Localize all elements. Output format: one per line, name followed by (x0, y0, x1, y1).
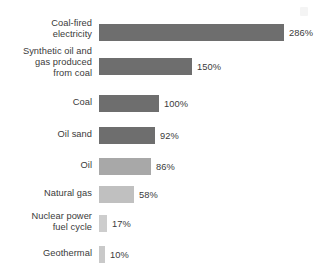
bar-category-label: Coal (0, 97, 92, 108)
bar-group: 150% (99, 58, 221, 75)
bar-category-label: Natural gas (0, 188, 92, 199)
bar-group: 58% (99, 186, 158, 203)
bar-group: 100% (99, 95, 188, 112)
bar-value-label: 10% (110, 250, 129, 260)
bar (99, 158, 151, 175)
bar-value-label: 150% (197, 62, 221, 72)
bar-value-label: 286% (289, 28, 313, 38)
bar-category-label: Oil sand (0, 129, 92, 140)
bar-value-label: 86% (156, 162, 175, 172)
bar-group: 86% (99, 158, 175, 175)
bar (99, 215, 107, 232)
bar-category-label: Oil (0, 160, 92, 171)
bar-category-label: Synthetic oil and gas produced from coal (0, 46, 92, 80)
bar-value-label: 58% (139, 190, 158, 200)
bar (99, 24, 284, 41)
bar (99, 95, 159, 112)
scan-artifact (300, 7, 308, 16)
bar-group: 10% (99, 246, 129, 263)
bar (99, 127, 155, 144)
bar-group: 92% (99, 127, 179, 144)
bar (99, 246, 105, 263)
bar-category-label: Coal-fired electricity (0, 18, 92, 40)
bar-chart: Coal-fired electricity286%Synthetic oil … (0, 0, 332, 276)
bar (99, 186, 134, 203)
bar-value-label: 92% (160, 131, 179, 141)
bar-group: 17% (99, 215, 131, 232)
bar-value-label: 100% (164, 99, 188, 109)
bar-group: 286% (99, 24, 313, 41)
bar-category-label: Nuclear power fuel cycle (0, 211, 92, 233)
bar-value-label: 17% (112, 219, 131, 229)
bar (99, 58, 192, 75)
bar-category-label: Geothermal (0, 248, 92, 259)
